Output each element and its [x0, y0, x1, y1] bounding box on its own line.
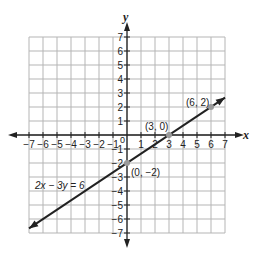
svg-text:−3: −3 [79, 139, 91, 150]
svg-text:7: 7 [117, 32, 123, 43]
svg-text:3: 3 [166, 139, 172, 150]
svg-text:−5: −5 [51, 139, 63, 150]
svg-text:−3: −3 [112, 172, 124, 183]
svg-text:7: 7 [222, 139, 228, 150]
svg-text:−1: −1 [112, 144, 124, 155]
svg-text:2: 2 [117, 102, 123, 113]
point-label-0-neg2: (0, −2) [131, 167, 160, 178]
svg-text:−6: −6 [37, 139, 49, 150]
svg-text:−4: −4 [65, 139, 77, 150]
origin-label: 0 [120, 135, 125, 145]
svg-text:−6: −6 [112, 214, 124, 225]
svg-text:5: 5 [194, 139, 200, 150]
svg-text:1: 1 [138, 139, 144, 150]
svg-text:−7: −7 [23, 139, 35, 150]
coordinate-plane-chart: −7−6−5−4−3−2−112345677654321−1−2−3−4−5−6… [0, 0, 259, 260]
y-axis-label: y [121, 10, 129, 24]
svg-text:1: 1 [117, 116, 123, 127]
svg-text:5: 5 [117, 60, 123, 71]
svg-text:6: 6 [117, 46, 123, 57]
svg-text:−5: −5 [112, 200, 124, 211]
x-axis-label: x [242, 128, 249, 142]
point-label-3-0: (3, 0) [145, 121, 168, 132]
svg-text:−2: −2 [93, 139, 105, 150]
equation-label: 2x − 3y = 6 [34, 180, 85, 191]
svg-text:4: 4 [180, 139, 186, 150]
svg-text:3: 3 [117, 88, 123, 99]
svg-text:−4: −4 [112, 186, 124, 197]
svg-text:4: 4 [117, 74, 123, 85]
svg-text:6: 6 [208, 139, 214, 150]
svg-text:−7: −7 [112, 228, 124, 239]
point-label-6-2: (6, 2) [186, 97, 209, 108]
